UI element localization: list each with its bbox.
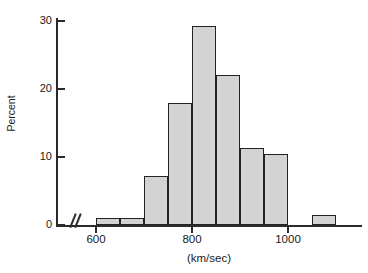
x-axis-tick-label: 600 (76, 233, 116, 245)
histogram-bar (264, 154, 288, 225)
y-axis-tick (58, 224, 65, 226)
y-axis-tick-label: 10 (0, 151, 52, 162)
histogram-bar (120, 218, 144, 225)
histogram-bar (168, 103, 192, 225)
y-axis-tick-label: 30 (0, 15, 52, 26)
y-axis-tick-label-text: 30 (40, 15, 52, 26)
y-axis-tick (58, 88, 65, 90)
histogram-figure: Percent (km/sec) 0102030 6008001000 (0, 0, 368, 273)
histogram-bar (312, 215, 336, 225)
histogram-bar (216, 75, 240, 225)
x-axis-line (56, 225, 362, 227)
y-axis-tick-label: 20 (0, 83, 52, 94)
y-axis-tick-label-text: 0 (46, 219, 52, 230)
y-axis-tick-label-text: 10 (40, 151, 52, 162)
histogram-bar (240, 148, 264, 225)
y-axis-tick (58, 156, 65, 158)
histogram-bar (192, 26, 216, 225)
x-axis-tick-label: 1000 (268, 233, 308, 245)
y-axis-tick (58, 20, 65, 22)
x-axis-tick-label: 800 (172, 233, 212, 245)
axis-break-icon (69, 212, 85, 228)
y-axis-tick-label: 0 (0, 219, 52, 230)
histogram-bar (96, 218, 120, 225)
x-axis-title: (km/sec) (56, 252, 362, 264)
histogram-bar (144, 176, 168, 225)
y-axis-line (56, 18, 58, 227)
y-axis-tick-label-text: 20 (40, 83, 52, 94)
